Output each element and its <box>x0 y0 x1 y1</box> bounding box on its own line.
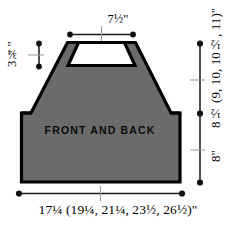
schematic-svg <box>0 0 236 227</box>
dimension-label-body-length: 8" <box>209 128 231 184</box>
garment-outline-group <box>22 43 181 183</box>
dimension-line-body-length <box>190 114 205 186</box>
dimension-label-top-shoulder-width: 7½" <box>0 13 236 26</box>
dimension-line-top-shoulder-width <box>67 26 136 41</box>
garment-piece-caption: FRONT AND BACK <box>22 124 178 136</box>
dimension-label-armhole-to-shoulder: 8½ (9, 10, 10½, 11)" <box>209 8 231 128</box>
dimension-label-hem-width: 17¼ (19¼, 21¼, 23½, 26½)" <box>0 203 236 217</box>
dimension-line-hem-width <box>16 186 185 201</box>
dimension-line-armhole-to-shoulder <box>190 40 205 116</box>
neckline-notch <box>68 43 135 66</box>
garment-schematic-diagram: 7½" 3¾" 8½ (9, 10, 10½, 11)" 8" 17¼ (19¼… <box>0 0 236 227</box>
dimension-line-neck-depth <box>28 41 44 70</box>
dimension-label-neck-depth: 3¾" <box>6 32 26 76</box>
